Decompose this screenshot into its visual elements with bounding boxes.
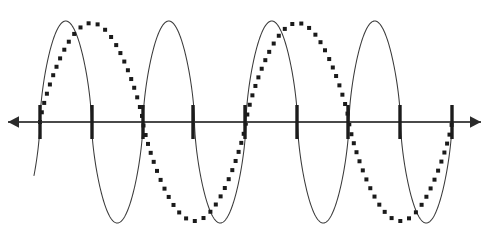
dotted-wave-dot <box>109 35 113 39</box>
axis-arrow-right-icon <box>470 116 481 127</box>
dotted-wave-dot <box>239 141 243 145</box>
dotted-wave-dot <box>55 65 59 69</box>
dotted-wave-dot <box>260 67 264 71</box>
dotted-wave-dot <box>177 210 181 214</box>
dotted-wave-dot <box>96 22 100 26</box>
dotted-wave-dot <box>349 132 353 136</box>
dotted-wave-dot <box>256 75 260 79</box>
dotted-wave-dot <box>390 216 394 220</box>
dotted-wave-dot <box>62 48 66 52</box>
dotted-wave-dot <box>337 83 341 87</box>
dotted-wave-dot <box>377 203 381 207</box>
dotted-wave-dot <box>373 195 377 199</box>
axis-arrow-left-icon <box>8 116 19 127</box>
dotted-wave-dot <box>407 216 411 220</box>
dotted-wave-dot <box>277 34 281 38</box>
dotted-wave-dot <box>67 40 71 44</box>
dotted-wave-dot <box>272 42 276 46</box>
dotted-wave-dot <box>283 27 287 31</box>
dotted-wave-dot <box>146 142 150 146</box>
dotted-wave-dot <box>237 150 241 154</box>
dotted-wave-dot <box>334 74 338 78</box>
wave-diagram-figure <box>0 0 489 243</box>
dotted-wave-dot <box>172 203 176 207</box>
dotted-wave-dot <box>230 168 234 172</box>
dotted-wave-dot <box>48 82 52 86</box>
dotted-wave-dot <box>114 43 118 47</box>
dotted-wave-dot <box>138 105 142 109</box>
dotted-wave-dot <box>436 169 440 173</box>
dotted-wave-dot <box>323 48 327 52</box>
dotted-wave-dot <box>355 150 359 154</box>
dotted-wave-dot <box>42 101 46 105</box>
dotted-wave-dot <box>214 203 218 207</box>
dotted-wave-dot <box>429 186 433 190</box>
dotted-wave-dot <box>299 22 303 26</box>
dotted-wave-dot <box>398 219 402 223</box>
dotted-wave-dot <box>263 58 267 62</box>
dotted-wave-dot <box>227 177 231 181</box>
dotted-wave-dot <box>290 22 294 26</box>
dotted-wave-dot <box>155 169 159 173</box>
dotted-wave-dot <box>383 210 387 214</box>
dotted-wave-dot <box>149 151 153 155</box>
dotted-wave-dot <box>132 86 136 90</box>
dotted-wave-dot <box>79 25 83 29</box>
dotted-wave-dot <box>361 168 365 172</box>
dotted-wave-dot <box>250 93 254 97</box>
dotted-wave-dot <box>307 26 311 30</box>
dotted-wave-dot <box>208 210 212 214</box>
dotted-wave-dot <box>424 195 428 199</box>
dotted-wave-dot <box>51 73 55 77</box>
dotted-wave-dot <box>414 210 418 214</box>
dotted-wave-dot <box>331 65 335 69</box>
dotted-wave-dot <box>368 186 372 190</box>
dotted-wave-dot <box>433 178 437 182</box>
dotted-wave-dot <box>248 103 252 107</box>
dotted-wave-dot <box>193 219 197 223</box>
dotted-wave-dot <box>313 33 317 37</box>
dotted-wave-dot <box>202 216 206 220</box>
dotted-wave-dot <box>358 159 362 163</box>
dotted-wave-dot <box>253 84 257 88</box>
wave-svg-canvas <box>0 0 489 243</box>
dotted-wave-dot <box>87 21 91 25</box>
dotted-wave-dot <box>439 160 443 164</box>
dotted-wave-dot <box>159 178 163 182</box>
dotted-wave-dot <box>135 95 139 99</box>
dotted-wave-dot <box>58 56 62 60</box>
dotted-wave-dot <box>223 186 227 190</box>
dotted-wave-dot <box>184 216 188 220</box>
dotted-wave-dot <box>352 141 356 145</box>
dotted-wave-dot <box>118 51 122 55</box>
dotted-wave-dot <box>152 160 156 164</box>
dotted-wave-dot <box>340 93 344 97</box>
dotted-wave-dot <box>234 159 238 163</box>
dotted-wave-dot <box>219 194 223 198</box>
dotted-wave-dot <box>163 187 167 191</box>
dotted-wave-dot <box>319 40 323 44</box>
dotted-wave-dot <box>129 77 133 81</box>
dotted-wave-dot <box>45 92 49 96</box>
dotted-wave-dot <box>72 32 76 36</box>
dotted-wave-dot <box>420 203 424 207</box>
dotted-wave-dot <box>122 60 126 64</box>
dotted-wave-dot <box>167 195 171 199</box>
dotted-wave-dot <box>442 151 446 155</box>
dotted-wave-dot <box>126 68 130 72</box>
dotted-wave-dot <box>103 28 107 32</box>
dotted-wave-dot <box>267 50 271 54</box>
dotted-wave-dot <box>327 57 331 61</box>
dotted-wave-dot <box>445 142 449 146</box>
dotted-wave-dot <box>364 177 368 181</box>
